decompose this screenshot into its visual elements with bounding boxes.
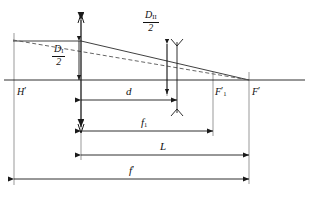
d2-numerator: DII <box>143 10 159 21</box>
d1-denominator: 2 <box>52 57 65 68</box>
dimension-label-d: d <box>126 86 132 97</box>
second-lens-element <box>171 39 183 116</box>
dimension-label-fprime: f′ <box>129 165 134 176</box>
semi-aperture-label-d1: DI 2 <box>52 44 65 67</box>
height-arrows <box>79 41 167 94</box>
d2-denominator: 2 <box>143 23 159 34</box>
d1-numerator: DI <box>52 44 65 55</box>
diagram-canvas: H′ F′1 F′ DI 2 DII 2 d f1 L f′ <box>0 0 309 203</box>
point-label-H: H′ <box>17 86 26 97</box>
dimension-label-L: L <box>160 141 166 152</box>
equivalent-ray-dashed <box>13 40 249 80</box>
semi-aperture-label-d2: DII 2 <box>143 10 159 33</box>
dimension-label-f1: f1 <box>141 117 147 129</box>
point-label-F: F′ <box>252 86 260 97</box>
reference-verticals <box>14 14 249 185</box>
point-label-F1: F′1 <box>215 86 227 97</box>
